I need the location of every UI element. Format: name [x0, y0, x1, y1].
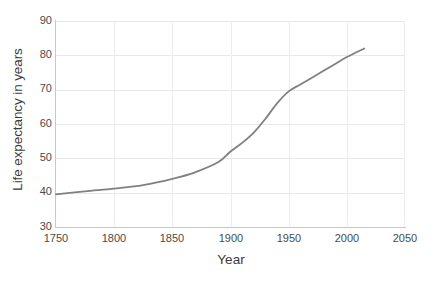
y-tick-label: 60 — [28, 118, 52, 129]
y-tick-label: 40 — [28, 186, 52, 197]
y-tick-label: 90 — [28, 15, 52, 26]
series-life-expectancy — [56, 21, 405, 227]
x-axis-line — [55, 227, 406, 228]
x-tick-label: 1800 — [89, 233, 139, 244]
line-chart: Life expectancy in years 90 80 70 60 50 … — [0, 0, 447, 281]
x-axis-tick-labels: 1750 1800 1850 1900 1950 2000 2050 — [0, 233, 447, 249]
x-tick-label: 1850 — [147, 233, 197, 244]
y-tick-label: 50 — [28, 152, 52, 163]
x-axis-title: Year — [56, 252, 406, 267]
y-tick-label: 80 — [28, 49, 52, 60]
x-tick-label: 2050 — [380, 233, 430, 244]
plot-area — [56, 21, 405, 227]
y-tick-label: 30 — [28, 221, 52, 232]
x-tick-label: 2000 — [322, 233, 372, 244]
series-line-path — [56, 48, 364, 194]
x-tick-label: 1950 — [264, 233, 314, 244]
x-tick-label: 1750 — [31, 233, 81, 244]
x-tick-label: 1900 — [206, 233, 256, 244]
y-tick-label: 70 — [28, 83, 52, 94]
